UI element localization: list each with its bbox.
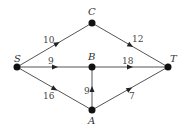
edge-label-b-t: 18 bbox=[122, 56, 134, 66]
node-label-b: B bbox=[87, 51, 95, 62]
node-c bbox=[89, 20, 96, 27]
arrow-a-b-icon bbox=[90, 86, 95, 92]
node-b bbox=[89, 64, 96, 71]
edge-label-s-b: 9 bbox=[48, 56, 54, 66]
edge-label-a-b: 9 bbox=[84, 86, 90, 96]
network-diagram: 10 9 16 12 18 9 7 S C B A T bbox=[0, 0, 182, 129]
node-t bbox=[165, 64, 172, 71]
edge-label-c-t: 12 bbox=[132, 34, 143, 44]
node-s bbox=[14, 64, 21, 71]
node-label-t: T bbox=[170, 53, 178, 64]
node-label-c: C bbox=[88, 6, 96, 17]
node-a bbox=[89, 107, 96, 114]
node-label-a: A bbox=[87, 115, 95, 126]
node-label-s: S bbox=[14, 53, 21, 64]
edge-label-s-c: 10 bbox=[43, 35, 55, 45]
edge-label-a-t: 7 bbox=[129, 91, 135, 101]
edge-label-s-a: 16 bbox=[43, 91, 55, 101]
